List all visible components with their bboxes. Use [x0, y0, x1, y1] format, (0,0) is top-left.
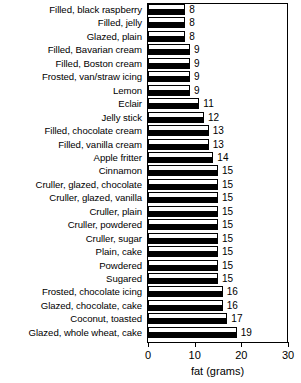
category-label: Cruller, plain	[0, 205, 142, 218]
bar-solid-band	[148, 279, 218, 284]
category-label: Eclair	[0, 97, 142, 110]
bar	[148, 17, 185, 28]
bar-row: Cinnamon15	[0, 164, 301, 177]
bar-row: Glazed, plain8	[0, 30, 301, 43]
bar	[148, 85, 190, 96]
bar-value-label: 15	[222, 218, 233, 231]
bar-value-label: 14	[217, 151, 228, 164]
bar-solid-band	[148, 77, 190, 82]
bar	[148, 112, 204, 123]
bar-row: Eclair11	[0, 97, 301, 110]
x-tick-label: 10	[180, 348, 210, 362]
x-tick-mark	[241, 342, 242, 347]
x-axis-title: fat (grams)	[147, 364, 288, 378]
bar-value-label: 13	[213, 138, 224, 151]
category-label: Glazed, whole wheat, cake	[0, 326, 142, 339]
bar-solid-band	[148, 292, 223, 297]
bar-value-label: 9	[194, 43, 200, 56]
category-label: Jelly stick	[0, 111, 142, 124]
bar-value-label: 15	[222, 178, 233, 191]
bar-row: Glazed, whole wheat, cake19	[0, 326, 301, 339]
bar	[148, 4, 185, 15]
bar-value-label: 15	[222, 245, 233, 258]
category-label: Cruller, glazed, chocolate	[0, 178, 142, 191]
bar-row: Apple fritter14	[0, 151, 301, 164]
bar	[148, 192, 218, 203]
category-label: Filled, Bavarian cream	[0, 43, 142, 56]
bar-solid-band	[148, 266, 218, 271]
x-tick-mark	[148, 342, 149, 347]
category-label: Filled, Boston cream	[0, 57, 142, 70]
category-label: Lemon	[0, 84, 142, 97]
bar-row: Cruller, plain15	[0, 205, 301, 218]
bar	[148, 31, 185, 42]
bar	[148, 139, 209, 150]
bar-value-label: 11	[203, 97, 213, 110]
bar	[148, 179, 218, 190]
bar	[148, 165, 218, 176]
bar	[148, 71, 190, 82]
bar-solid-band	[148, 319, 227, 324]
bar-solid-band	[148, 212, 218, 217]
bar-solid-band	[148, 37, 185, 42]
bar-row: Jelly stick12	[0, 111, 301, 124]
category-label: Sugared	[0, 272, 142, 285]
bar	[148, 58, 190, 69]
bar-value-label: 15	[222, 259, 233, 272]
bar-row: Plain, cake15	[0, 245, 301, 258]
category-label: Cruller, glazed, vanilla	[0, 191, 142, 204]
bar-value-label: 19	[241, 326, 252, 339]
category-label: Filled, vanilla cream	[0, 138, 142, 151]
bar-row: Filled, Bavarian cream9	[0, 43, 301, 56]
bar-solid-band	[148, 131, 209, 136]
bar-row: Filled, jelly8	[0, 16, 301, 29]
bar-solid-band	[148, 171, 218, 176]
category-label: Coconut, toasted	[0, 312, 142, 325]
bar-row: Filled, chocolate cream13	[0, 124, 301, 137]
bar-value-label: 9	[194, 70, 200, 83]
bar-row: Cruller, powdered15	[0, 218, 301, 231]
bar	[148, 273, 218, 284]
bar-value-label: 9	[194, 84, 200, 97]
bar-solid-band	[148, 50, 190, 55]
bar	[148, 260, 218, 271]
category-label: Cinnamon	[0, 164, 142, 177]
bar-row: Cruller, glazed, chocolate15	[0, 178, 301, 191]
category-label: Filled, jelly	[0, 16, 142, 29]
bar	[148, 233, 218, 244]
bar	[148, 44, 190, 55]
bar-solid-band	[148, 198, 218, 203]
category-label: Frosted, chocolate icing	[0, 285, 142, 298]
bar-solid-band	[148, 64, 190, 69]
bar-value-label: 12	[208, 111, 219, 124]
bar	[148, 327, 237, 338]
category-label: Plain, cake	[0, 245, 142, 258]
bar	[148, 98, 199, 109]
bar-solid-band	[148, 104, 199, 109]
bar-solid-band	[148, 239, 218, 244]
x-tick-label: 20	[226, 348, 256, 362]
bar	[148, 246, 218, 257]
bar-solid-band	[148, 225, 218, 230]
bar-value-label: 16	[227, 299, 238, 312]
bar-chart-figure: Filled, black raspberry8Filled, jelly8Gl…	[0, 0, 301, 383]
category-label: Cruller, powdered	[0, 218, 142, 231]
bar-value-label: 13	[213, 124, 224, 137]
x-tick-mark	[288, 342, 289, 347]
bar-row: Powdered15	[0, 259, 301, 272]
bar	[148, 286, 223, 297]
category-label: Cruller, sugar	[0, 232, 142, 245]
bar-rows-container: Filled, black raspberry8Filled, jelly8Gl…	[0, 3, 301, 341]
bar	[148, 125, 209, 136]
category-label: Apple fritter	[0, 151, 142, 164]
bar-row: Filled, vanilla cream13	[0, 138, 301, 151]
x-axis-line	[147, 342, 288, 343]
bar-solid-band	[148, 91, 190, 96]
category-label: Glazed, chocolate, cake	[0, 299, 142, 312]
bar-solid-band	[148, 185, 218, 190]
bar-value-label: 15	[222, 272, 233, 285]
bar-value-label: 15	[222, 205, 233, 218]
bar-solid-band	[148, 118, 204, 123]
bar-solid-band	[148, 158, 213, 163]
bar-row: Coconut, toasted17	[0, 312, 301, 325]
